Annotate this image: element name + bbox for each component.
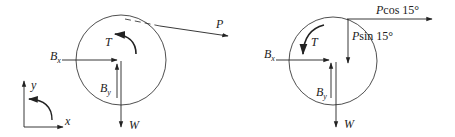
free-body-diagram-right: Pcos 15° Psin 15° T Bx By W [264, 3, 432, 131]
weight-w-label: W [129, 118, 140, 132]
positive-rotation-arrow [29, 99, 52, 120]
reaction-by-label: By [100, 81, 111, 97]
weight-w-label-right: W [344, 117, 355, 131]
reaction-bx-label-right: Bx [264, 47, 275, 63]
tension-p-label: P [215, 17, 224, 31]
torque-t-label: T [105, 35, 113, 49]
torque-t-label-right: T [311, 35, 319, 49]
x-axis-label: x [64, 114, 71, 128]
p-sin-label: Psin 15° [351, 29, 393, 43]
reaction-bx-label: Bx [50, 49, 61, 65]
y-axis-label: y [30, 78, 37, 92]
torque-t-arrow [115, 34, 136, 54]
free-body-diagram-left: P T Bx By W y x [24, 15, 228, 132]
coordinate-axes: y x [24, 78, 71, 128]
diagram-canvas: P T Bx By W y x Pcos 15° Psin 15° [0, 0, 455, 137]
reaction-by-label-right: By [316, 85, 327, 101]
p-cos-label: Pcos 15° [375, 3, 419, 17]
